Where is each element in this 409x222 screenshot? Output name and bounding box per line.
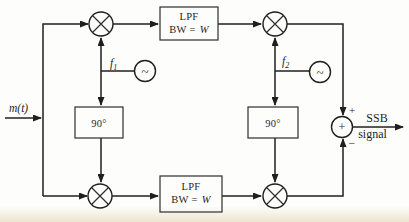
oscillator-label-f2: f2: [282, 55, 289, 70]
phase-shifter-left-box: 90°: [75, 107, 123, 138]
phase-shifter-right-box: 90°: [248, 107, 298, 138]
output-label-signal: signal: [358, 127, 387, 141]
multiplier-top-left: [89, 12, 113, 36]
plus-icon: +: [339, 120, 346, 134]
oscillator-label-f1: f1: [110, 57, 117, 72]
lpf-bottom-bw-label: BW =W: [171, 194, 211, 205]
input-label: m(t): [9, 102, 28, 115]
tilde-icon: ~: [141, 64, 148, 79]
tilde-icon: ~: [316, 65, 323, 80]
mixer-to-summer-bottom-line: [287, 139, 343, 196]
phase-shifter-left-label: 90°: [91, 118, 107, 129]
lpf-bottom-label: LPF: [182, 181, 201, 192]
lpf-top-label: LPF: [180, 11, 199, 22]
phase-shifter-right-label: 90°: [265, 118, 281, 129]
lpf-bottom-box: LPF BW =W: [160, 176, 222, 212]
multiplier-top-right: [263, 12, 287, 36]
lpf-top-bw-label: BW =W: [169, 24, 209, 35]
summer-plus-sign: +: [349, 104, 355, 116]
multiplier-bottom-right: [263, 184, 287, 208]
lpf-top-box: LPF BW =W: [160, 7, 218, 40]
multiplier-bottom-left: [88, 184, 112, 208]
oscillator-left: ~: [135, 61, 156, 82]
signal-split-line-top: [43, 24, 88, 196]
output-label-ssb: SSB: [366, 111, 387, 125]
figure-canvas: m(t) LPF BW =W LPF BW =W: [0, 0, 409, 222]
oscillator-right: ~: [310, 62, 331, 83]
ssb-modulator-diagram: m(t) LPF BW =W LPF BW =W: [0, 0, 409, 222]
summer-minus-sign: −: [349, 136, 356, 150]
